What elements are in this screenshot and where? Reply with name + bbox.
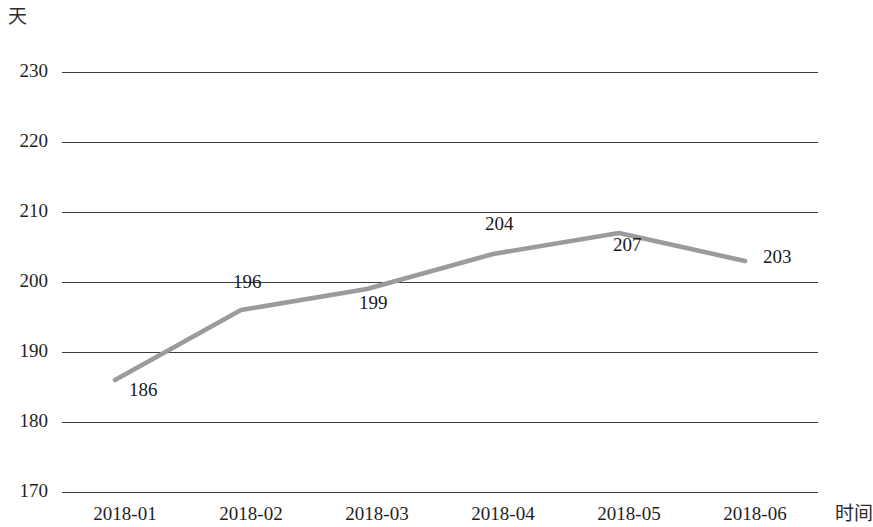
x-axis-tick-label: 2018-06 — [723, 503, 786, 525]
x-axis-tick-label: 2018-01 — [93, 503, 156, 525]
x-axis-tick-label: 2018-04 — [471, 503, 534, 525]
y-axis-tick-label: 230 — [20, 61, 49, 81]
y-axis-tick-label: 170 — [20, 481, 49, 501]
y-axis-tick-label: 190 — [20, 341, 49, 361]
x-axis-tick-label: 2018-02 — [219, 503, 282, 525]
gridline — [62, 282, 818, 283]
gridline — [62, 422, 818, 423]
series-line-days — [115, 233, 745, 380]
gridline — [62, 142, 818, 143]
data-point-label: 186 — [129, 380, 158, 400]
data-point-label: 207 — [613, 235, 642, 255]
y-axis-tick-label: 180 — [20, 411, 49, 431]
x-axis-tick-label: 2018-05 — [597, 503, 660, 525]
gridline — [62, 72, 818, 73]
y-axis-tick-label: 200 — [20, 271, 49, 291]
y-axis-tick-label: 210 — [20, 201, 49, 221]
y-axis-unit-label: 天 — [8, 5, 28, 29]
gridline — [62, 492, 818, 493]
gridline — [62, 352, 818, 353]
y-axis-tick-label: 220 — [20, 131, 49, 151]
gridline — [62, 212, 818, 213]
data-point-label: 204 — [485, 214, 514, 234]
x-axis-tick-label: 2018-03 — [345, 503, 408, 525]
data-point-label: 196 — [233, 272, 262, 292]
x-axis-unit-label: 时间 — [835, 503, 873, 525]
data-point-label: 203 — [763, 247, 792, 267]
data-point-label: 199 — [359, 293, 388, 313]
